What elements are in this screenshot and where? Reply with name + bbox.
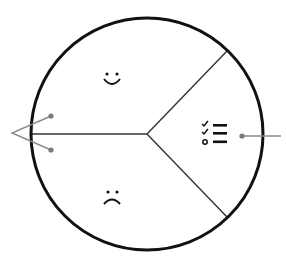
left-connector-dot-lower: [48, 147, 53, 152]
checklist-icon: [202, 121, 227, 144]
right-connector: [239, 133, 281, 138]
spoke-upper-right: [147, 51, 227, 134]
right-connector-dot: [239, 133, 244, 138]
sector-dividers: [32, 51, 227, 217]
diagram-canvas: [0, 0, 286, 266]
smiley-face-icon: [104, 72, 120, 84]
spoke-lower-right: [147, 134, 227, 217]
frowning-face-icon: [104, 190, 120, 204]
left-connector-dot-upper: [48, 113, 53, 118]
